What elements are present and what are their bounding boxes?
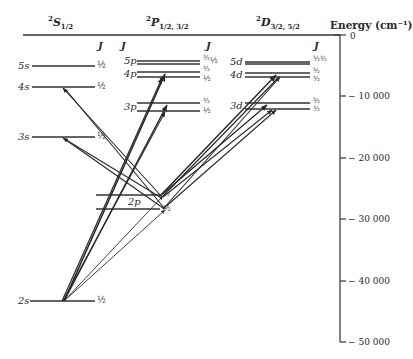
level-label-3d: 3d — [230, 101, 243, 111]
tick-label-50000: − 50 000 — [348, 337, 390, 347]
j-value-3d-a: ⁵⁄₂ — [313, 98, 320, 105]
j-value-2s: ½ — [97, 297, 106, 304]
j-value-4s: ½ — [97, 83, 106, 90]
transitions — [62, 74, 280, 301]
level-label-2p: 2p — [128, 197, 141, 207]
j-value-4d-a: ⁵⁄₂ — [313, 68, 320, 75]
level-label-2s: 2s — [18, 296, 30, 306]
tick-label-20000: − 20 000 — [348, 153, 390, 163]
j-value-2p-b: ½ — [163, 205, 171, 212]
level-label-5s: 5s — [18, 61, 30, 71]
j-value-3s: ½ — [97, 133, 106, 140]
level-label-3p: 3p — [124, 102, 137, 112]
j-header-p-left: J — [121, 40, 126, 51]
transition-2p-3d — [160, 105, 267, 196]
level-label-5p: 5p — [124, 56, 137, 66]
transition-2s-2p — [64, 196, 163, 301]
j-value-5p-a: ³⁄₂ — [203, 55, 210, 62]
tick-label-10000: − 10 000 — [348, 91, 390, 101]
column-title-p: 2P1/2, 3/2 — [146, 14, 189, 31]
level-label-4s: 4s — [18, 82, 30, 92]
j-value-5p-b: ½ — [210, 57, 218, 64]
j-value-4d-b: ³⁄₂ — [313, 76, 320, 83]
j-value-5d-b: ³⁄₂ — [320, 56, 327, 63]
tick-label-30000: − 30 000 — [348, 214, 390, 224]
tick-label-0: 0 — [350, 31, 356, 41]
j-value-2p-a: ³⁄₂ — [163, 191, 170, 198]
tick-label-40000: − 40 000 — [348, 276, 390, 286]
energy-axis — [334, 35, 346, 342]
column-title-d: 2D3/2, 5/2 — [256, 14, 300, 31]
level-label-5d: 5d — [230, 57, 243, 67]
column-title-s: 2S1/2 — [48, 14, 73, 31]
j-value-4p-b: ½ — [203, 75, 211, 82]
transition-2p-4d — [160, 75, 276, 196]
j-header-d: J — [314, 40, 319, 51]
j-value-5s: ½ — [97, 62, 106, 69]
s-levels — [30, 66, 95, 301]
transition-2s-4p — [64, 74, 165, 301]
j-value-4p-a: ³⁄₂ — [203, 66, 210, 73]
j-value-3p-b: ½ — [203, 107, 211, 114]
axis-title: Energy (cm⁻¹) — [330, 19, 413, 31]
level-label-3s: 3s — [18, 132, 30, 142]
j-header-p-right: J — [206, 40, 211, 51]
level-label-4d: 4d — [230, 70, 243, 80]
level-label-4p: 4p — [124, 69, 137, 79]
p-levels — [96, 61, 200, 209]
j-value-3p-a: ³⁄₂ — [203, 98, 210, 105]
j-value-5d-a: ⁵⁄₂ — [313, 56, 320, 63]
j-header-s: J — [98, 40, 103, 51]
j-value-3d-b: ³⁄₂ — [313, 106, 320, 113]
